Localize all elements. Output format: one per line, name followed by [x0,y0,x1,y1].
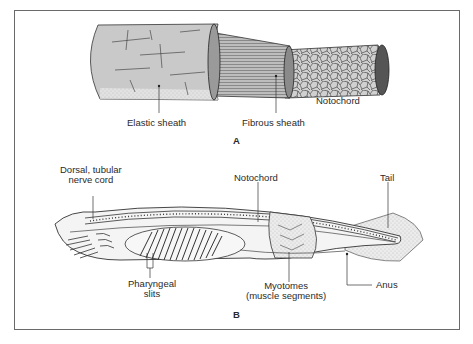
label-nerve-cord: Dorsal, tubular nerve cord [60,165,122,185]
panel-letter-a: A [233,135,240,146]
label-elastic-sheath: Elastic sheath [127,118,186,128]
label-anus: Anus [376,280,398,290]
label-pharyngeal-line2: slits [128,289,176,299]
label-nerve-cord-line2: nerve cord [60,175,122,185]
panel-letter-b: B [233,309,240,320]
label-myotomes-line2: (muscle segments) [246,291,326,301]
label-myotomes: Myotomes (muscle segments) [246,281,326,301]
label-notochord-b: Notochord [234,173,278,183]
label-pharyngeal-slits: Pharyngeal slits [128,279,176,299]
label-fibrous-sheath: Fibrous sheath [242,118,305,128]
label-notochord-a: Notochord [316,96,360,106]
label-tail: Tail [380,173,394,183]
panel-b-illustration [55,182,423,285]
